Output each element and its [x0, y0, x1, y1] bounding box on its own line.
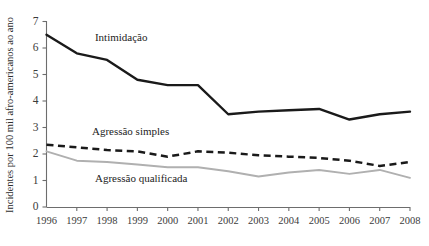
x-tick-label: 2008: [400, 215, 421, 226]
x-tick-label: 2004: [278, 215, 300, 226]
y-tick-label: 6: [33, 41, 39, 53]
y-axis-title: Incidentes por 100 mil afro-americanos a…: [4, 17, 15, 213]
y-axis-ticks: 01234567: [33, 15, 47, 213]
series-paths: [47, 35, 411, 178]
y-tick-label: 0: [33, 200, 39, 212]
y-axis-title-group: Incidentes por 100 mil afro-americanos a…: [4, 17, 15, 213]
x-tick-label: 1997: [66, 215, 87, 226]
line-chart: Incidentes por 100 mil afro-americanos a…: [0, 0, 429, 246]
y-tick-label: 7: [33, 15, 39, 27]
x-axis-ticks: 1996199719981999200020012002200320042005…: [36, 207, 421, 226]
x-tick-label: 2001: [187, 215, 208, 226]
series-line: [47, 35, 411, 120]
x-tick-label: 1996: [36, 215, 57, 226]
x-tick-label: 1999: [127, 215, 148, 226]
series-annotation-label: Intimidação: [95, 31, 148, 43]
x-tick-label: 2007: [369, 215, 390, 226]
x-tick-label: 2003: [248, 215, 269, 226]
y-tick-label: 4: [33, 94, 39, 106]
y-tick-label: 1: [33, 174, 39, 186]
series-annotation-label: Agressão qualificada: [95, 172, 188, 184]
series-annotation-label: Agressão simples: [92, 125, 169, 137]
y-tick-label: 3: [33, 121, 39, 133]
y-tick-label: 5: [33, 68, 39, 80]
series-line: [47, 145, 411, 166]
x-tick-label: 2005: [309, 215, 330, 226]
x-tick-label: 1998: [97, 215, 118, 226]
chart-container: Incidentes por 100 mil afro-americanos a…: [0, 0, 429, 246]
x-tick-label: 2006: [339, 215, 360, 226]
x-tick-label: 2000: [157, 215, 178, 226]
y-tick-label: 2: [33, 147, 39, 159]
x-tick-label: 2002: [218, 215, 239, 226]
